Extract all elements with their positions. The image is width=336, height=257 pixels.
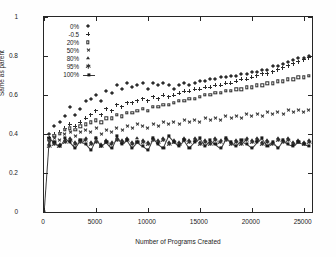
data-point-filled-square <box>157 142 160 145</box>
x-tick <box>96 208 97 212</box>
data-point-filled-square <box>307 144 310 147</box>
data-point-filled-square <box>48 136 51 139</box>
data-point-filled-square <box>297 140 300 143</box>
data-point-filled-square <box>292 144 295 147</box>
y-tick <box>44 95 48 96</box>
y-tick <box>44 173 48 174</box>
data-point-diamond <box>86 24 90 28</box>
legend-marker-x <box>83 46 103 54</box>
data-point-filled-square <box>94 136 97 139</box>
legend-marker-diamond <box>83 22 103 30</box>
x-tick-top <box>44 17 45 21</box>
data-point-filled-square <box>281 138 284 141</box>
x-tick-label: 5000 <box>70 218 120 225</box>
y-tick-label: 1 <box>0 13 18 20</box>
legend-label: 50% <box>53 47 79 54</box>
data-point-filled-square <box>151 136 154 139</box>
x-tick-top <box>148 17 149 21</box>
data-point-filled-square <box>89 148 92 151</box>
x-tick-label: 20000 <box>226 218 276 225</box>
legend-item-05[interactable]: -0.5 <box>53 30 103 38</box>
data-point-filled-square <box>261 136 264 139</box>
y-tick-right <box>308 17 312 18</box>
x-tick <box>304 208 305 212</box>
legend-label: 95% <box>53 63 79 70</box>
data-point-filled-square <box>198 136 201 139</box>
data-point-filled-square <box>141 144 144 147</box>
data-point-filled-square <box>229 140 232 143</box>
y-tick-label: 0.4 <box>0 130 18 137</box>
data-point-filled-square <box>276 146 279 149</box>
data-point-filled-square <box>84 142 87 145</box>
data-point-filled-square <box>240 138 243 141</box>
x-tick <box>200 208 201 212</box>
data-point-filled-square <box>172 140 175 143</box>
legend-marker-triangle <box>83 54 103 62</box>
data-point-filled-square <box>105 140 108 143</box>
data-point-filled-square <box>219 146 222 149</box>
data-point-star <box>86 64 90 68</box>
data-point-plus <box>86 32 90 36</box>
data-point-filled-square <box>183 138 186 141</box>
data-point-open-square <box>86 41 89 44</box>
legend-item-20[interactable]: 20% <box>53 38 103 46</box>
data-point-filled-square <box>87 73 90 76</box>
x-tick-label: 10000 <box>122 218 172 225</box>
legend-marker-filled-square-line <box>83 71 103 79</box>
data-point-filled-square <box>235 144 238 147</box>
x-tick-top <box>304 17 305 21</box>
data-point-filled-square <box>302 142 305 145</box>
data-point-filled-square <box>126 138 129 141</box>
y-tick-right <box>308 95 312 96</box>
data-point-filled-square <box>271 140 274 143</box>
x-tick-top <box>96 17 97 21</box>
data-point-filled-square <box>58 144 61 147</box>
x-tick-label: 0 <box>18 218 68 225</box>
y-tick-label: 0.6 <box>0 91 18 98</box>
data-point-filled-square <box>209 138 212 141</box>
x-tick-top <box>252 17 253 21</box>
legend-marker-star <box>83 63 103 71</box>
data-point-filled-square <box>146 148 149 151</box>
plot-frame: 0%-0.520%50%80%95%100% <box>43 16 313 213</box>
legend-marker-plus <box>83 30 103 38</box>
legend-label: 80% <box>53 55 79 62</box>
data-point-filled-square <box>162 146 165 149</box>
y-tick <box>44 56 48 57</box>
y-tick <box>44 134 48 135</box>
data-point-filled-square <box>266 144 269 147</box>
x-tick <box>44 208 45 212</box>
legend-item-0[interactable]: 0% <box>53 22 103 30</box>
legend-item-100[interactable]: 100% <box>53 71 103 79</box>
data-point-triangle <box>86 57 90 60</box>
y-tick-right <box>308 173 312 174</box>
legend-item-95[interactable]: 95% <box>53 62 103 70</box>
legend-item-50[interactable]: 50% <box>53 46 103 54</box>
y-tick-label: 0 <box>0 208 18 215</box>
chart-root: Same as parent Number of Programs Create… <box>0 0 336 257</box>
data-point-filled-square <box>177 144 180 147</box>
data-point-filled-square <box>68 140 71 143</box>
x-tick-label: 15000 <box>174 218 224 225</box>
chart-legend: 0%-0.520%50%80%95%100% <box>53 22 103 79</box>
data-point-filled-square <box>193 140 196 143</box>
data-point-filled-square <box>74 146 77 149</box>
y-tick <box>44 212 48 213</box>
data-point-filled-square <box>136 140 139 143</box>
y-tick-label: 0.2 <box>0 169 18 176</box>
legend-item-80[interactable]: 80% <box>53 54 103 62</box>
legend-marker-open-square <box>83 38 103 46</box>
legend-label: 100% <box>53 71 79 78</box>
series-line-segment <box>44 138 50 212</box>
data-point-filled-square <box>255 140 258 143</box>
data-point-x <box>86 48 90 52</box>
x-tick <box>252 208 253 212</box>
data-point-filled-square <box>115 134 118 137</box>
data-point-filled-square <box>203 144 206 147</box>
legend-label: -0.5 <box>53 31 79 38</box>
x-axis-title: Number of Programs Created <box>43 238 313 245</box>
x-tick-label: 25000 <box>278 218 328 225</box>
data-point-filled-square <box>167 134 170 137</box>
data-point-filled-square <box>188 146 191 149</box>
y-tick-right <box>308 56 312 57</box>
